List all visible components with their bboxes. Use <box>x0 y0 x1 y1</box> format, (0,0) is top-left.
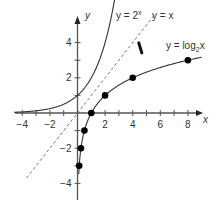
y-tick-label: 4 <box>66 37 72 48</box>
y-axis-label: y <box>84 10 91 21</box>
data-point <box>88 110 95 117</box>
y-axis-arrow-icon <box>75 16 81 24</box>
y-tick-label: −2 <box>60 143 72 154</box>
data-point <box>76 163 83 170</box>
label-identity: y = x <box>152 10 173 21</box>
curve-x <box>26 14 154 178</box>
curve-labels: y = 2x y = x y = log2x y x <box>84 9 209 125</box>
curves <box>14 0 202 178</box>
chart-figure: −4−2246842−2−4 y = 2x y = x y = log2x y … <box>0 0 217 210</box>
curve-log2x <box>79 57 202 174</box>
data-point <box>185 57 192 64</box>
label-exp: y = 2x <box>116 9 142 21</box>
reflection-mark <box>139 43 142 53</box>
x-axis-label: x <box>202 114 209 125</box>
x-axis-arrow-icon <box>196 110 203 116</box>
y-tick-label: −4 <box>60 178 72 189</box>
x-tick-label: 8 <box>185 119 191 130</box>
x-tick-label: −2 <box>44 119 56 130</box>
data-point <box>102 92 109 99</box>
plot-area: −4−2246842−2−4 y = 2x y = x y = log2x y … <box>0 0 217 210</box>
y-tick-label: 2 <box>66 72 72 83</box>
data-point <box>78 145 85 152</box>
annotations <box>139 43 142 53</box>
data-point <box>129 75 136 82</box>
x-tick-label: −4 <box>17 119 29 130</box>
x-tick-label: 2 <box>102 119 108 130</box>
label-log: y = log2x <box>166 40 205 53</box>
data-point <box>81 127 88 134</box>
x-tick-label: 4 <box>130 119 136 130</box>
x-tick-label: 6 <box>158 119 164 130</box>
